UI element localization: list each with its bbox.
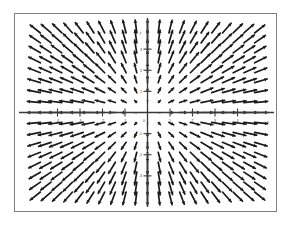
quiver-arrowhead: [27, 100, 30, 104]
x-tick-label: -1: [123, 119, 126, 123]
y-tick-label: 2: [140, 69, 142, 73]
plot-frame: -4-3-2-11234-3-2-11230xy: [14, 13, 277, 212]
x-tick-label: 3: [214, 119, 216, 123]
y-tick-label: 1: [140, 90, 142, 94]
y-tick-label: -1: [139, 132, 142, 136]
quiver-arrowhead: [265, 100, 268, 104]
y-tick-label: 3: [140, 48, 142, 52]
x-axis-label: x: [266, 119, 269, 124]
x-tick-label: -2: [101, 119, 104, 123]
y-tick-label: -2: [139, 153, 142, 157]
quiver-arrowhead: [158, 20, 162, 23]
y-axis-label: y: [139, 30, 142, 35]
quiver-arrowhead: [27, 122, 30, 126]
x-tick-label: 2: [192, 119, 194, 123]
quiver-arrowhead: [158, 202, 162, 205]
x-tick-label: 1: [169, 119, 171, 123]
quiver-arrowhead: [134, 20, 138, 23]
x-tick-label: -4: [56, 119, 59, 123]
figure-root: -4-3-2-11234-3-2-11230xy: [0, 0, 292, 225]
x-tick-label: -3: [78, 119, 81, 123]
quiver-arrowhead: [134, 202, 138, 205]
origin-label: 0: [143, 119, 145, 123]
y-tick-label: -3: [139, 174, 142, 178]
x-tick-label: 4: [237, 119, 239, 123]
vector-field-plot: -4-3-2-11234-3-2-11230xy: [15, 14, 278, 213]
